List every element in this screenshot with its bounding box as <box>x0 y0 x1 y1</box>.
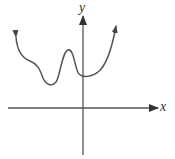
x-axis-label: x <box>160 100 166 114</box>
function-graph-figure: y x <box>0 0 175 159</box>
function-curve <box>16 26 116 85</box>
graph-canvas <box>0 0 175 159</box>
y-axis-label: y <box>79 1 85 15</box>
